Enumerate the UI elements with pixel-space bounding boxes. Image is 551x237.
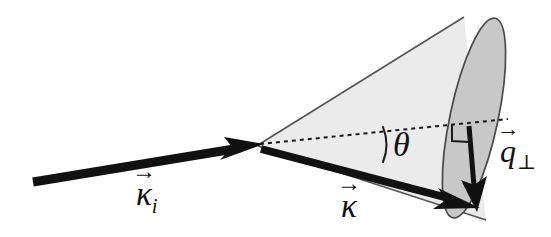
kappa-i-subscript: i — [152, 195, 158, 217]
label-transverse-vector: → q ⊥ — [500, 133, 536, 174]
kappa-symbol-group: → κ — [341, 188, 357, 225]
kappa-i-symbol-group: → κ — [136, 176, 152, 213]
vector-arrow-icon: → — [337, 171, 360, 195]
diagram-canvas — [0, 0, 551, 237]
label-scattering-angle: θ — [393, 126, 410, 164]
label-incident-vector: → κ i — [136, 176, 158, 218]
vector-arrow-icon: → — [132, 159, 155, 183]
vector-arrow-icon: → — [497, 117, 519, 140]
scattering-cone-diagram: → κ i → κ θ → q ⊥ — [0, 0, 551, 237]
q-symbol-group: → q — [500, 133, 516, 170]
perpendicular-icon: ⊥ — [517, 151, 536, 173]
label-scattered-vector: → κ — [341, 188, 357, 225]
